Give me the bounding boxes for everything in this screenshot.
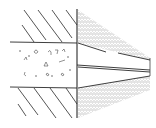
lower-wall-hatch — [18, 88, 77, 118]
cross-section-drawing — [0, 0, 156, 128]
diagram-canvas — [0, 0, 156, 128]
upper-wall-hatch — [22, 10, 77, 42]
center-slot — [77, 65, 150, 72]
concrete-aggregate — [20, 49, 71, 77]
bore-outline — [10, 42, 77, 88]
upper-shaded-wedge — [78, 10, 150, 60]
